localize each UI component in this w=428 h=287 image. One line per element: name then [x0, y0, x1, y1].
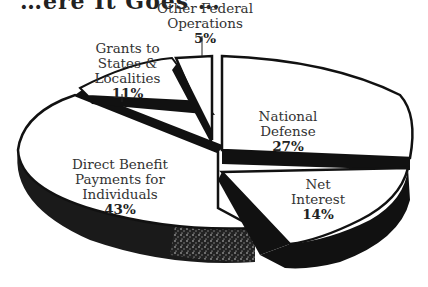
label-other-federal: Other Federal Operations 5%: [150, 1, 260, 46]
label-grants: Grants to States & Localities 11%: [65, 41, 190, 101]
label-direct-benefit: Direct Benefit Payments for Individuals …: [70, 157, 170, 217]
label-national-defense: National Defense 27%: [248, 109, 328, 154]
label-net-interest: Net Interest 14%: [283, 177, 353, 222]
